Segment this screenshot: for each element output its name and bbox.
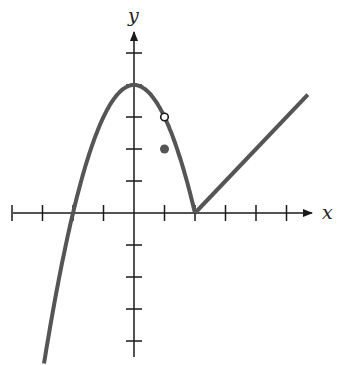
open-circle-point xyxy=(161,113,169,121)
y-axis-label: y xyxy=(127,4,139,26)
function-graph: x y xyxy=(0,0,340,365)
linear-curve xyxy=(195,95,308,213)
parabola-curve xyxy=(44,85,195,364)
filled-circle-point xyxy=(160,145,169,154)
x-axis-label: x xyxy=(322,201,333,223)
